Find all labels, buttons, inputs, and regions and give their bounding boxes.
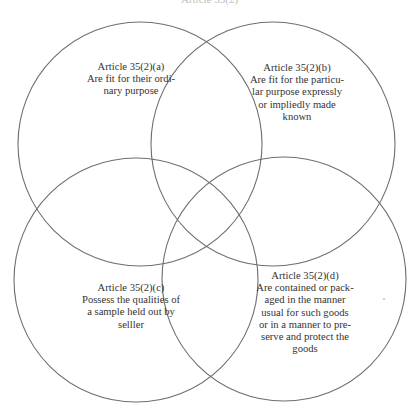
label-line: or impliedly made: [232, 99, 362, 111]
label-title: Article 35(2)(c): [66, 282, 196, 294]
label-line: aged in the manner: [240, 294, 370, 306]
label-line: nary purpose: [66, 85, 196, 97]
label-title: Article 35(2)(d): [240, 270, 370, 282]
label-line: usual for such goods: [240, 307, 370, 319]
label-article-35-2-b: Article 35(2)(b) Are fit for the particu…: [232, 62, 362, 123]
circle-article-35-2-a: [18, 22, 262, 266]
label-line: a sample held out by: [66, 306, 196, 318]
label-line: Possess the qualities of: [66, 294, 196, 306]
label-article-35-2-a: Article 35(2)(a) Are fit for their ordi-…: [66, 61, 196, 98]
label-title: Article 35(2)(a): [66, 61, 196, 73]
label-line: Are fit for the particu-: [232, 74, 362, 86]
scan-artifact: [383, 298, 385, 300]
label-article-35-2-c: Article 35(2)(c) Possess the qualities o…: [66, 282, 196, 331]
label-line: Are contained or pack-: [240, 282, 370, 294]
label-line: or in a manner to pre-: [240, 319, 370, 331]
label-line: serve and protect the: [240, 331, 370, 343]
label-line: selller: [66, 319, 196, 331]
circle-article-35-2-b: [151, 22, 395, 266]
label-line: Are fit for their ordi-: [66, 73, 196, 85]
label-line: lar purpose expressly: [232, 86, 362, 98]
label-line: goods: [240, 343, 370, 355]
label-line: known: [232, 111, 362, 123]
circle-article-35-2-c: [14, 158, 258, 402]
label-title: Article 35(2)(b): [232, 62, 362, 74]
label-article-35-2-d: Article 35(2)(d) Are contained or pack- …: [240, 270, 370, 355]
